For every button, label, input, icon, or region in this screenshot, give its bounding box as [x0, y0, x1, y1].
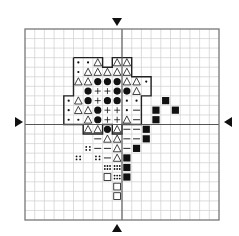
stitch-circ [84, 87, 91, 94]
stitch-circ [94, 78, 101, 85]
stitch-sq [172, 107, 179, 114]
stitch-tri [94, 68, 102, 75]
stitch-tri [94, 125, 102, 132]
stitch-dot [126, 100, 128, 102]
stitch-tri [113, 125, 121, 132]
stitch-dot [135, 100, 137, 102]
stitch-tri [84, 78, 92, 85]
stitch-dot [145, 80, 147, 82]
stitch-d6 [114, 175, 121, 180]
stitch-d4 [95, 156, 100, 161]
stitch-tri [113, 59, 121, 66]
stitch-sq [143, 126, 150, 133]
stitch-tri [123, 78, 131, 85]
stitch-tri [84, 106, 92, 113]
stitch-symbols [68, 59, 179, 200]
stitch-d4 [85, 146, 90, 151]
stitch-plus [104, 107, 110, 113]
stitch-tri [94, 59, 102, 66]
stitch-tri [75, 97, 83, 104]
stitch-circ [84, 97, 91, 104]
stitch-tri [75, 106, 83, 113]
stitch-tri [84, 125, 92, 132]
stitch-tri [123, 68, 131, 75]
stitch-tri [104, 68, 112, 75]
stitch-tri [113, 154, 121, 161]
stitch-tri [84, 116, 92, 123]
stitch-sq [123, 173, 130, 180]
stitch-sq [123, 154, 130, 161]
stitch-tri [113, 135, 121, 142]
stitch-tri [133, 78, 141, 85]
stitch-d4 [76, 156, 81, 161]
stitch-dot [126, 109, 128, 111]
stitch-plus [104, 117, 110, 123]
stitch-sq [123, 164, 130, 171]
left-arrow-icon [15, 117, 23, 127]
stitch-circ [94, 116, 101, 123]
stitch-d6 [104, 165, 111, 170]
stitch-plus [104, 88, 110, 94]
stitch-tri [123, 59, 131, 66]
stitch-plus [95, 98, 101, 104]
stitch-tri [133, 87, 141, 94]
stitch-sq [152, 116, 159, 123]
stitch-dot [77, 71, 79, 73]
stitch-dot [77, 61, 79, 63]
stitch-tri [104, 135, 112, 142]
stitch-circ [104, 78, 111, 85]
stitch-dot [68, 109, 70, 111]
stitch-dot [68, 100, 70, 102]
stitch-sq [143, 135, 150, 142]
stitch-d6 [114, 165, 121, 170]
top-arrow-icon [112, 18, 122, 26]
cross-stitch-chart [0, 0, 239, 236]
stitch-circ [114, 87, 121, 94]
stitch-plus [114, 117, 120, 123]
stitch-osq [114, 193, 121, 200]
stitch-circ [123, 87, 130, 94]
stitch-dot [77, 119, 79, 121]
stitch-circ [94, 107, 101, 114]
stitch-sq [133, 145, 140, 152]
stitch-circ [104, 97, 111, 104]
stitch-circ [114, 97, 121, 104]
stitch-dot [87, 61, 89, 63]
stitch-plus [95, 88, 101, 94]
stitch-circ [114, 78, 121, 85]
stitch-tri [84, 68, 92, 75]
stitch-tri [75, 78, 83, 85]
right-arrow-icon [224, 117, 232, 127]
stitch-dot [68, 119, 70, 121]
stitch-tri [113, 68, 121, 75]
stitch-tri [123, 116, 131, 123]
stitch-osq [104, 174, 111, 181]
stitch-osq [114, 183, 121, 190]
stitch-plus [114, 107, 120, 113]
stitch-sq [162, 97, 169, 104]
stitch-circ [104, 126, 111, 133]
stitch-tri [113, 145, 121, 152]
stitch-sq [152, 107, 159, 114]
bottom-arrow-icon [112, 224, 122, 232]
